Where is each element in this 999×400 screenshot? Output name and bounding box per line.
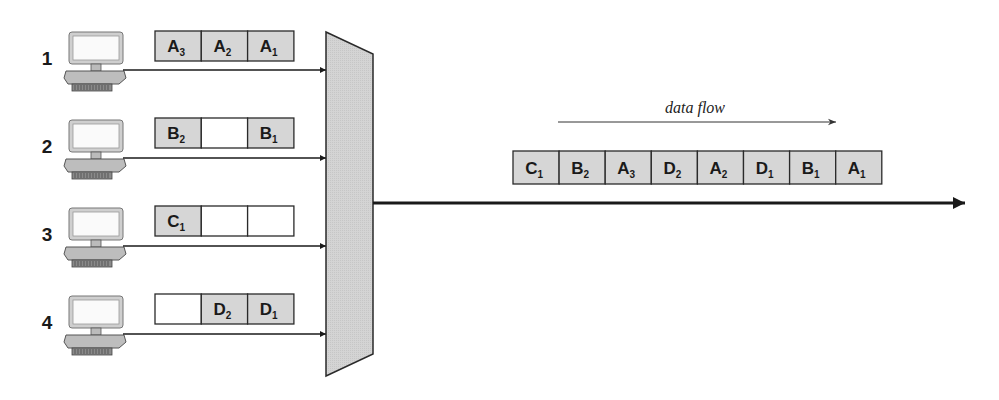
source-row-1: 1A3A2A1 [42, 31, 326, 91]
packet-buffer: A3A2A1 [155, 31, 294, 61]
packet-slot [155, 294, 201, 324]
source-row-2: 2B2B1 [42, 118, 326, 179]
computer-icon [64, 32, 126, 91]
packet-slot [201, 118, 247, 148]
source-row-3: 3C1 [42, 206, 326, 267]
sources: 1A3A2A12B2B13C14D2D1 [42, 31, 326, 355]
packet-buffer: C1 [155, 206, 294, 236]
packet-buffer: D2D1 [155, 294, 294, 324]
source-number: 2 [42, 136, 53, 157]
multiplexer [326, 32, 373, 376]
source-number: 1 [42, 48, 53, 69]
output-stream: C1B2A3D2A2D1B1A1 [513, 151, 882, 184]
tdm-diagram: 1A3A2A12B2B13C14D2D1 data flow C1B2A3D2A… [0, 0, 999, 400]
source-number: 4 [42, 312, 53, 333]
data-flow-label: data flow [665, 99, 725, 117]
computer-icon [64, 208, 126, 267]
source-number: 3 [42, 224, 53, 245]
computer-icon [64, 296, 126, 355]
packet-slot [248, 206, 294, 236]
computer-icon [64, 120, 126, 179]
packet-slot [201, 206, 247, 236]
source-row-4: 4D2D1 [42, 294, 326, 355]
packet-buffer: B2B1 [155, 118, 294, 148]
